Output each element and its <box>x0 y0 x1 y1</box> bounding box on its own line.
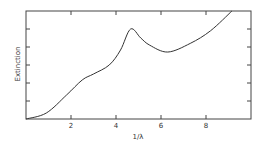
x-tick-label: 6 <box>159 122 164 130</box>
y-axis-label: Extinction <box>14 47 22 82</box>
x-tick-label: 4 <box>114 122 119 130</box>
x-axis-label: 1/λ <box>133 133 144 141</box>
extinction-curve <box>26 11 232 119</box>
plot-frame <box>26 11 251 119</box>
extinction-chart: 2468 1/λ Extinction <box>0 0 264 143</box>
axis-ticks <box>26 11 251 119</box>
x-tick-label: 2 <box>69 122 73 130</box>
x-tick-labels: 2468 <box>69 122 208 130</box>
x-tick-label: 8 <box>204 122 208 130</box>
